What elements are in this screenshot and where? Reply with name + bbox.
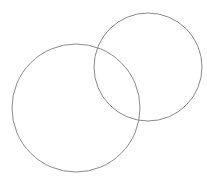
large-circle <box>12 44 140 172</box>
venn-diagram <box>0 0 207 188</box>
small-circle <box>94 13 202 121</box>
